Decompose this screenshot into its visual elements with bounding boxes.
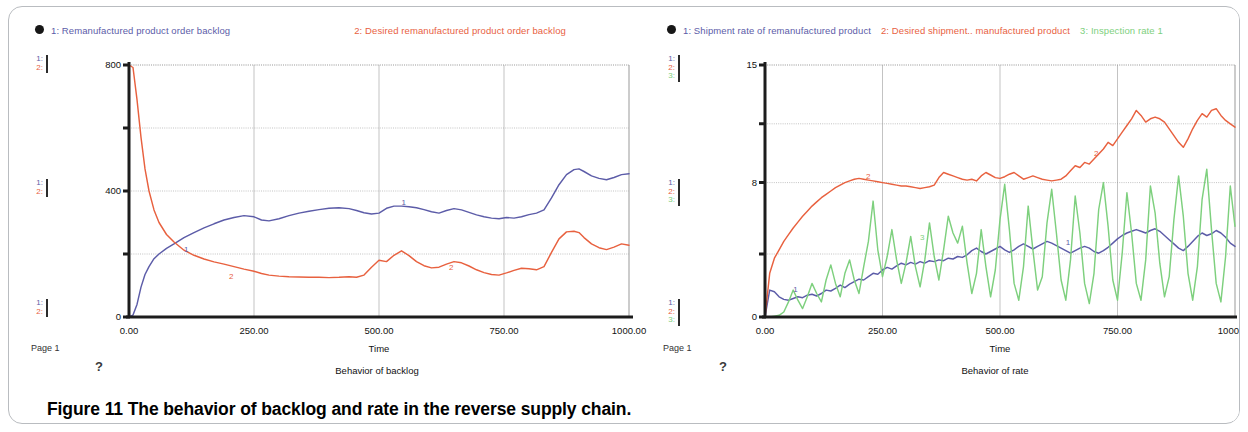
page-label: Page 1: [663, 343, 692, 353]
x-axis-tick-label: 0.00: [120, 325, 139, 336]
help-question-icon[interactable]: ?: [719, 359, 727, 374]
plot-caption: Behavior of backlog: [117, 365, 637, 376]
help-question-icon[interactable]: ?: [95, 359, 103, 374]
chart-panels: 1: Remanufactured product order backlog2…: [9, 7, 1240, 379]
inplot-series-label: 3: [920, 233, 925, 242]
inplot-series-label: 2: [1094, 149, 1099, 158]
inplot-series-label: 2: [866, 172, 871, 181]
inplot-series-label: 1: [184, 245, 189, 254]
inplot-series-label: 1: [402, 198, 407, 207]
x-axis-title: Time: [765, 343, 1235, 354]
y-axis-tick-label: 0: [725, 311, 757, 322]
figure-caption: Figure 11 The behavior of backlog and ra…: [47, 399, 1147, 420]
x-axis-tick-label: 750.00: [489, 325, 518, 336]
x-axis-title: Time: [129, 343, 629, 354]
y-axis-tick-label: 8: [725, 177, 757, 188]
inplot-series-label: 2: [449, 263, 454, 272]
y-axis-tick-label: 400: [89, 185, 121, 196]
chart-panel-rate: 1: Shipment rate of remanufactured produ…: [657, 7, 1237, 379]
x-axis-tick-label: 250.00: [868, 325, 897, 336]
y-axis-tick-label: 0: [89, 311, 121, 322]
figure-frame: 1: Remanufactured product order backlog2…: [8, 6, 1240, 424]
chart-panel-backlog: 1: Remanufactured product order backlog2…: [17, 7, 649, 379]
page-label: Page 1: [31, 343, 60, 353]
inplot-series-label: 1: [1066, 238, 1071, 247]
inplot-series-label: 2: [229, 272, 234, 281]
y-axis-tick-label: 800: [89, 59, 121, 70]
plot-caption: Behavior of rate: [755, 365, 1235, 376]
x-axis-tick-label: 250.00: [239, 325, 268, 336]
x-axis-tick-label: 750.00: [1103, 325, 1132, 336]
x-axis-tick-label: 500.00: [985, 325, 1014, 336]
x-axis-tick-label: 1000.00: [1218, 325, 1240, 336]
x-axis-tick-label: 500.00: [364, 325, 393, 336]
x-axis-tick-label: 1000.00: [612, 325, 646, 336]
inplot-series-label: 1: [793, 285, 798, 294]
y-axis-tick-label: 15: [725, 59, 757, 70]
x-axis-tick-label: 0.00: [756, 325, 775, 336]
